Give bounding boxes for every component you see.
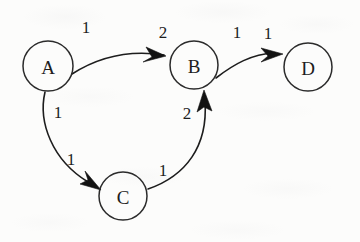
arrowhead-icon — [143, 47, 166, 62]
edge-c-to-b-curve — [148, 102, 205, 189]
arrowhead-icon — [80, 171, 101, 190]
edge-b-to-d: 1 1 — [216, 23, 283, 79]
node-c[interactable]: C — [99, 172, 147, 220]
edge-b-to-d-weight-source: 1 — [233, 23, 242, 42]
node-a[interactable]: A — [23, 41, 73, 91]
edge-a-to-c-weight-source: 1 — [54, 103, 63, 122]
node-d[interactable]: D — [284, 43, 332, 91]
diagram-canvas: 1 2 1 1 1 1 2 1 A B — [0, 0, 360, 242]
edge-a-to-b-weight-target: 2 — [159, 23, 168, 42]
edge-b-to-d-curve — [216, 53, 274, 78]
edge-a-to-c-weight-target: 1 — [67, 150, 76, 169]
edge-c-to-b-weight-source: 1 — [159, 161, 168, 180]
node-b-label: B — [188, 56, 201, 77]
node-d-label: D — [301, 58, 315, 79]
node-b[interactable]: B — [170, 41, 218, 89]
edge-b-to-d-weight-target: 1 — [264, 24, 273, 43]
edge-c-to-b: 2 1 — [148, 90, 212, 189]
edge-c-to-b-weight-target: 2 — [183, 104, 192, 123]
edge-a-to-b-curve — [72, 53, 164, 74]
directed-weighted-graph: 1 2 1 1 1 1 2 1 A B — [0, 0, 360, 242]
edge-a-to-b-weight-source: 1 — [82, 18, 91, 37]
edge-a-to-b: 1 2 — [72, 18, 167, 75]
node-a-label: A — [41, 57, 55, 78]
node-c-label: C — [117, 187, 130, 208]
arrowhead-icon — [261, 48, 283, 62]
edge-a-to-c: 1 1 — [43, 92, 101, 190]
edge-a-to-c-curve — [43, 92, 88, 182]
